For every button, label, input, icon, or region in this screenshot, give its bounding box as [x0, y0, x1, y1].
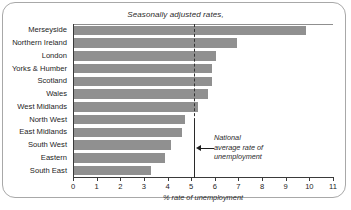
x-tick-label: 1: [89, 182, 105, 191]
x-tick-label: 0: [65, 182, 81, 191]
annotation-line-2: average rate of: [214, 143, 290, 153]
chart-screenshot: Seasonally adjusted rates, MerseysideNor…: [0, 0, 351, 210]
bar-row: [73, 126, 333, 139]
annotation-line-1: National: [214, 133, 290, 143]
x-tick-label: 2: [112, 182, 128, 191]
category-label: Scotland: [37, 76, 67, 85]
annotation-line-3: unemployment: [214, 152, 290, 162]
national-average-annotation: National average rate of unemployment: [214, 133, 290, 162]
x-tick-mark: [168, 177, 169, 181]
x-tick-mark: [191, 177, 192, 181]
category-axis-labels: MerseysideNorthern IrelandLondonYorks & …: [0, 24, 70, 177]
category-label: East Midlands: [19, 127, 67, 136]
bar: [74, 26, 306, 36]
x-tick-label: 10: [301, 182, 317, 191]
bar-row: [73, 24, 333, 37]
bar-row: [73, 75, 333, 88]
x-tick-label: 5: [183, 182, 199, 191]
bar-series: [73, 24, 333, 177]
bar: [74, 128, 182, 138]
bar: [74, 64, 212, 74]
x-tick-mark: [333, 177, 334, 181]
x-tick-label: 3: [136, 182, 152, 191]
category-label: South West: [28, 140, 67, 149]
x-tick-label: 4: [160, 182, 176, 191]
category-label: Northern Ireland: [12, 38, 67, 47]
x-tick-label: 11: [325, 182, 341, 191]
bar-row: [73, 113, 333, 126]
annotation-arrow-icon: [196, 145, 214, 152]
x-axis-title: % rate of unemployment: [73, 193, 333, 202]
x-tick-mark: [215, 177, 216, 181]
bar: [74, 140, 171, 150]
category-label: South East: [30, 166, 67, 175]
category-label: North West: [29, 115, 67, 124]
category-label: Eastern: [41, 153, 67, 162]
bar: [74, 153, 165, 163]
national-average-line-dashed: [194, 24, 195, 131]
category-label: Wales: [46, 89, 67, 98]
category-label: West Midlands: [17, 102, 67, 111]
x-tick-mark: [309, 177, 310, 181]
bar-row: [73, 101, 333, 114]
bar: [74, 38, 237, 48]
x-tick-mark: [262, 177, 263, 181]
x-tick-mark: [286, 177, 287, 181]
x-tick-label: 8: [254, 182, 270, 191]
x-tick-mark: [238, 177, 239, 181]
bar: [74, 102, 198, 112]
category-label: Yorks & Humber: [12, 64, 67, 73]
x-tick-mark: [97, 177, 98, 181]
x-tick-label: 7: [230, 182, 246, 191]
bar: [74, 51, 216, 61]
national-average-line-solid: [194, 119, 195, 178]
bar-row: [73, 50, 333, 63]
x-tick-label: 9: [278, 182, 294, 191]
category-label: London: [42, 51, 67, 60]
plot-area: [73, 24, 333, 177]
x-tick-mark: [120, 177, 121, 181]
bar: [74, 89, 208, 99]
bar: [74, 115, 185, 125]
bar: [74, 166, 151, 176]
bar-row: [73, 152, 333, 165]
chart-title: Seasonally adjusted rates,: [0, 10, 351, 19]
x-tick-mark: [73, 177, 74, 181]
bar-row: [73, 88, 333, 101]
x-tick-label: 6: [207, 182, 223, 191]
category-label: Merseyside: [28, 25, 67, 34]
bar-row: [73, 164, 333, 177]
x-tick-mark: [144, 177, 145, 181]
bar-row: [73, 37, 333, 50]
bar-row: [73, 62, 333, 75]
bar: [74, 77, 212, 87]
